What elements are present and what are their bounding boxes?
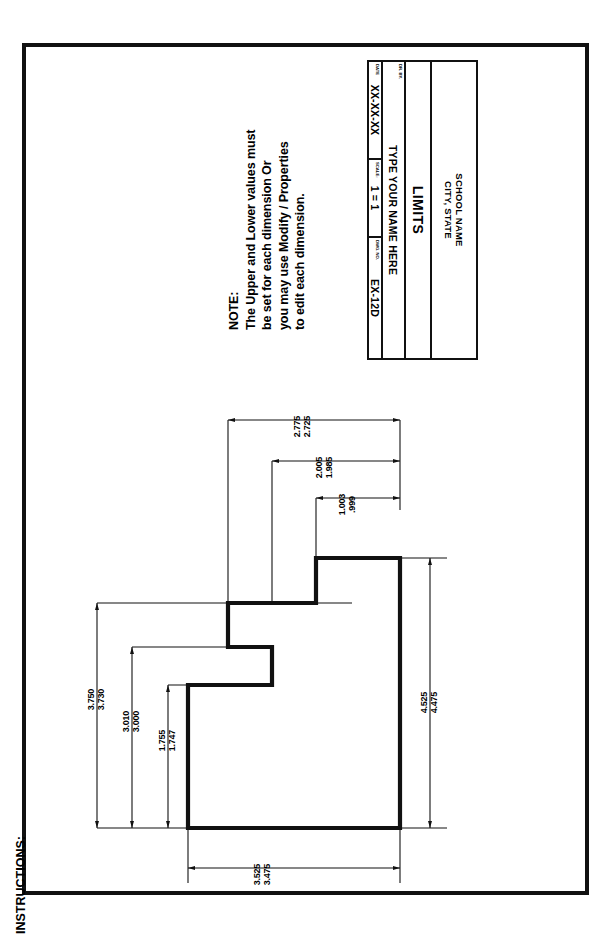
- dim-3750-lower: 3.730: [97, 680, 107, 720]
- note-line-1: The Upper and Lower values must: [243, 130, 260, 330]
- title-block-row-drawnby: DR. BY. TYPE YOUR NAME HERE: [383, 62, 406, 358]
- dim-1755-text: 1.755 1.747: [158, 721, 177, 761]
- drawn-by-label: DR. BY.: [398, 64, 403, 79]
- date-label: DATE: [375, 64, 380, 75]
- dim-2005-lower: 1.985: [325, 448, 335, 488]
- dim-2005-text: 2.005 1.985: [315, 448, 334, 488]
- dim-2775-text: 2.775 2.725: [293, 407, 312, 447]
- drawn-by-cell: DR. BY. TYPE YOUR NAME HERE: [383, 62, 404, 358]
- date-value[interactable]: XX-XX-XX: [369, 85, 381, 136]
- dim-4525-lower: 4.475: [430, 683, 440, 723]
- dim-3010-lower: 3.000: [132, 702, 142, 742]
- dim-1003-text: 1.003 .999: [338, 485, 357, 525]
- dim-2775-lower: 2.725: [303, 407, 313, 447]
- dwg-no-label: DWG. NO.: [375, 240, 380, 260]
- dim-4525-text: 4.525 4.475: [420, 683, 439, 723]
- scale-cell: SCALE: 1 = 1: [369, 158, 381, 236]
- title-block-row-school: SCHOOL NAME CITY, STATE: [432, 62, 476, 358]
- school-name: SCHOOL NAME: [454, 173, 465, 246]
- drawing-title: LIMITS: [406, 62, 430, 358]
- scale-label: SCALE:: [375, 162, 380, 178]
- instructions-label: INSTRUCTIONS:: [14, 836, 28, 934]
- dim-3525-text: 3.525 3.475: [253, 855, 272, 895]
- note-block: NOTE: The Upper and Lower values must be…: [226, 130, 309, 330]
- title-block: SCHOOL NAME CITY, STATE LIMITS DR. BY. T…: [367, 60, 478, 360]
- title-block-row-title: LIMITS: [406, 62, 432, 358]
- city-state: CITY, STATE: [443, 181, 454, 239]
- note-line-4: to edit each dimension.: [292, 130, 309, 330]
- dimension-arrowheads: [95, 418, 432, 870]
- dwg-no-value[interactable]: EX-12D: [369, 279, 381, 317]
- dim-1003-lower: .999: [348, 485, 358, 525]
- dim-3525-lower: 3.475: [263, 855, 273, 895]
- dwg-no-cell: DWG. NO. EX-12D: [369, 236, 381, 358]
- title-block-row-bottom: DATE XX-XX-XX SCALE: 1 = 1 DWG. NO. EX-1…: [369, 62, 383, 358]
- scale-value[interactable]: 1 = 1: [369, 186, 381, 211]
- drawn-by-value[interactable]: TYPE YOUR NAME HERE: [388, 145, 400, 275]
- dim-1755-lower: 1.747: [168, 721, 178, 761]
- note-line-2: be set for each dimension Or: [259, 130, 276, 330]
- date-cell: DATE XX-XX-XX: [369, 62, 381, 158]
- dim-3750-text: 3.750 3.730: [87, 680, 106, 720]
- part-outline: [188, 558, 400, 828]
- note-line-3: you may use Modify / Properties: [276, 130, 293, 330]
- dim-3010-text: 3.010 3.000: [122, 702, 141, 742]
- school-name-cell: SCHOOL NAME CITY, STATE: [432, 62, 476, 358]
- note-heading: NOTE:: [226, 130, 243, 330]
